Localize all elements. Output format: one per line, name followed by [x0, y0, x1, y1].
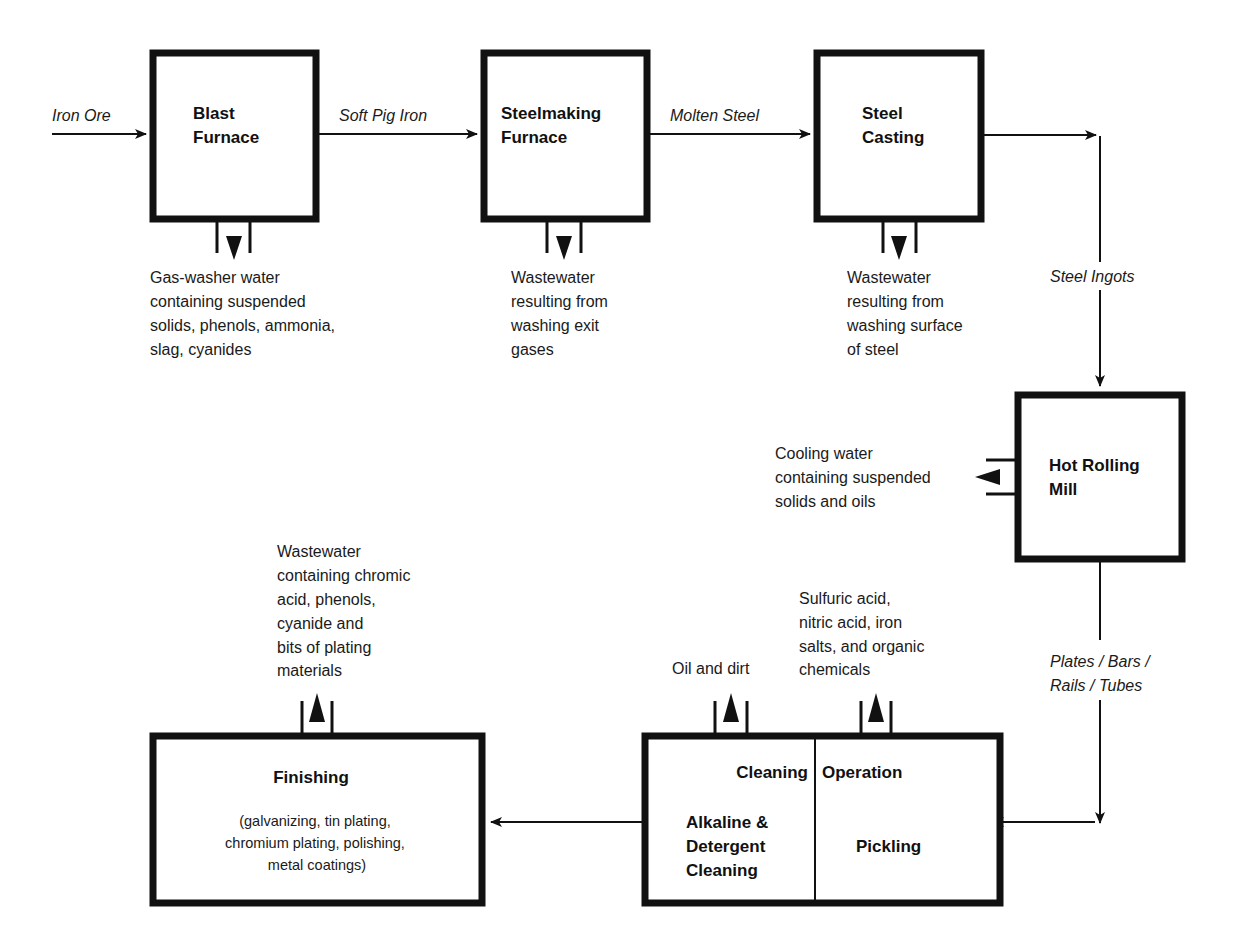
header-operation: Operation	[822, 763, 902, 782]
arrow-down-icon	[891, 236, 907, 260]
waste-outlet-finishing: Wastewater containing chromic acid, phen…	[277, 543, 415, 733]
waste-label-hot-rolling-mill: Cooling water containing suspended solid…	[775, 445, 935, 510]
node-title-line2: Mill	[1049, 480, 1077, 499]
section-pickling: Pickling	[856, 837, 921, 856]
arrow-down-icon	[556, 236, 572, 260]
header-cleaning: Cleaning	[736, 763, 808, 782]
section-title-line1: Alkaline &	[686, 813, 768, 832]
node-finishing: Finishing (galvanizing, tin plating, chr…	[153, 736, 482, 903]
node-steel-casting: Steel Casting	[817, 53, 981, 219]
process-box	[1018, 395, 1182, 559]
arrow-up-icon	[723, 693, 739, 722]
waste-label-pickling: Sulfuric acid, nitric acid, iron salts, …	[799, 590, 929, 678]
section-alkaline-detergent-cleaning: Alkaline & Detergent Cleaning	[686, 813, 768, 880]
node-title-line1: Steelmaking	[501, 104, 601, 123]
flow-label-soft-pig-iron: Soft Pig Iron	[339, 107, 427, 124]
node-title-line2: Furnace	[193, 128, 259, 147]
waste-outlet-pickling: Sulfuric acid, nitric acid, iron salts, …	[799, 590, 929, 733]
waste-outlet-steelmaking-furnace: Wastewater resulting from washing exit g…	[510, 222, 612, 358]
node-title-line1: Hot Rolling	[1049, 456, 1140, 475]
arrow-down-icon	[226, 236, 242, 260]
waste-outlet-hot-rolling-mill: Cooling water containing suspended solid…	[775, 445, 1015, 510]
molten-steel-flow: Molten Steel	[650, 107, 810, 134]
soft-pig-iron-flow: Soft Pig Iron	[319, 107, 477, 134]
node-title-line2: Furnace	[501, 128, 567, 147]
waste-label-blast-furnace: Gas-washer water containing suspended so…	[150, 269, 339, 358]
waste-label-steel-casting: Wastewater resulting from washing surfac…	[846, 269, 967, 358]
node-title-line1: Blast	[193, 104, 235, 123]
arrow-left-icon	[975, 469, 1000, 485]
flow-label-plates-bars-rails-tubes: Plates / Bars / Rails / Tubes	[1050, 653, 1154, 694]
node-steelmaking-furnace: Steelmaking Furnace	[484, 53, 647, 219]
waste-outlet-steel-casting: Wastewater resulting from washing surfac…	[846, 222, 967, 358]
node-title: Finishing	[273, 768, 349, 787]
steel-process-flow-diagram: Iron Ore Blast Furnace Gas-washer water …	[0, 0, 1240, 943]
node-cleaning-operation: Cleaning Operation Alkaline & Detergent …	[645, 736, 1000, 903]
waste-label-steelmaking-furnace: Wastewater resulting from washing exit g…	[510, 269, 612, 358]
steel-ingots-flow: Steel Ingots	[984, 135, 1135, 386]
flow-label-iron-ore: Iron Ore	[52, 107, 111, 124]
waste-label-finishing: Wastewater containing chromic acid, phen…	[277, 543, 415, 679]
section-title-line2: Detergent	[686, 837, 766, 856]
node-title-line1: Steel	[862, 104, 903, 123]
waste-label-alkaline-cleaning: Oil and dirt	[672, 660, 750, 677]
node-title-line2: Casting	[862, 128, 924, 147]
plates-bars-rails-tubes-flow: Plates / Bars / Rails / Tubes	[993, 562, 1154, 823]
section-title-line3: Cleaning	[686, 861, 758, 880]
section-title-line1: Pickling	[856, 837, 921, 856]
node-blast-furnace: Blast Furnace	[153, 53, 316, 219]
flow-label-molten-steel: Molten Steel	[670, 107, 759, 124]
iron-ore-input-flow: Iron Ore	[52, 107, 146, 134]
arrow-up-icon	[309, 693, 325, 722]
arrow-up-icon	[868, 693, 884, 722]
waste-outlet-blast-furnace: Gas-washer water containing suspended so…	[150, 222, 339, 358]
waste-outlet-alkaline-cleaning: Oil and dirt	[672, 660, 750, 733]
node-hot-rolling-mill: Hot Rolling Mill	[1018, 395, 1182, 559]
flow-label-steel-ingots: Steel Ingots	[1050, 268, 1135, 285]
